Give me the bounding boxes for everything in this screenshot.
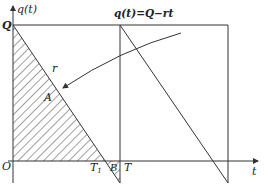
region-b-label: B (109, 162, 117, 173)
region-a-label: A (43, 91, 52, 104)
t1-label: T1 (90, 161, 102, 175)
t-label: T (124, 161, 133, 174)
y-axis-label: q(t) (17, 3, 37, 16)
formula-label: q(t)=Q−rt (114, 7, 173, 19)
formula-pointer-arrow (63, 33, 181, 88)
inventory-diagram: q(t) t Q O q(t)=Q−rt r A B T1 T (0, 0, 264, 189)
origin-label: O (2, 160, 11, 173)
rate-label: r (52, 62, 58, 75)
x-axis-label: t (252, 165, 257, 178)
q-label: Q (2, 19, 12, 32)
